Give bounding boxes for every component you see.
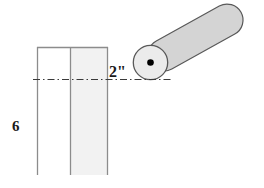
pivot-center-dot [147,59,154,66]
column-left-panel [37,47,70,175]
offset-dimension-label: 2" [109,64,126,80]
figure-canvas: 6 2" [0,0,264,188]
mechanism-diagram [0,0,264,188]
column-right-panel [70,47,108,175]
height-dimension-label: 6 [12,119,20,134]
